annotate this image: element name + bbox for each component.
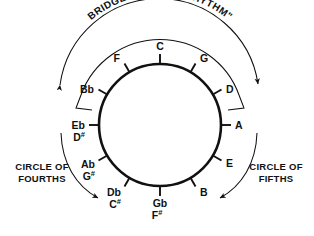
tick-e: [213, 156, 222, 161]
tick-ab: [99, 156, 108, 161]
tick-db: [125, 178, 130, 187]
note-label-csharp: C#: [109, 197, 122, 211]
circle-of-fifths-label-line1: CIRCLE OF: [249, 161, 302, 172]
note-label-a: A: [235, 119, 243, 131]
note-label-fsharp: F#: [152, 208, 163, 222]
circle-of-fifths-ring: [99, 64, 221, 186]
bridge-bracket-right-flare: [228, 95, 244, 110]
tick-b: [191, 178, 196, 187]
note-label-gsharp: G#: [83, 169, 96, 183]
note-label-f: F: [114, 52, 121, 64]
circle-of-fourths-label-line2: FOURTHS: [18, 173, 66, 184]
note-label-gsharp-letter: G: [83, 170, 91, 182]
note-label-e: E: [226, 157, 233, 169]
tick-f: [125, 64, 130, 73]
note-label-bb: Bb: [80, 83, 94, 95]
tick-g: [191, 64, 196, 73]
note-label-gsharp-accidental: #: [91, 169, 96, 178]
circle-of-fifths-label-line2: FIFTHS: [259, 173, 294, 184]
note-label-g: G: [200, 52, 208, 64]
note-label-dsharp-accidental: #: [81, 130, 86, 139]
note-label-d: D: [226, 83, 234, 95]
bridge-label: BRIDGE TO "I GOT RHYTHM": [85, 0, 234, 22]
note-label-c: C: [156, 40, 164, 52]
note-label-dsharp: D#: [73, 130, 86, 144]
circle-of-fourths-label-line1: CIRCLE OF: [15, 161, 68, 172]
diagram-canvas: BRIDGE TO "I GOT RHYTHM" C G D A: [0, 0, 314, 236]
tick-d: [213, 90, 222, 95]
tick-bb: [99, 90, 108, 95]
note-label-csharp-accidental: #: [117, 197, 122, 206]
note-label-b: B: [200, 186, 208, 198]
circle-of-fifths-diagram: BRIDGE TO "I GOT RHYTHM" C G D A: [0, 0, 314, 236]
bridge-label-textpath: BRIDGE TO "I GOT RHYTHM": [85, 0, 234, 22]
bridge-bracket-left-flare: [76, 95, 92, 110]
